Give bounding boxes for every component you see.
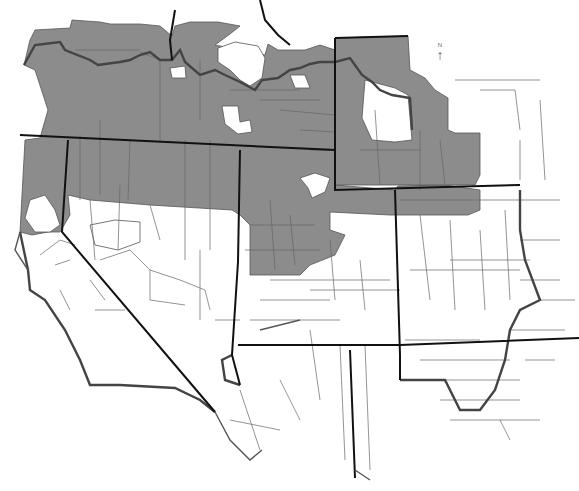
north-arrow-icon: ↑: [430, 48, 450, 62]
coastline: [15, 232, 370, 480]
north-arrow: N ↑: [430, 42, 450, 62]
county-map: [0, 0, 579, 491]
